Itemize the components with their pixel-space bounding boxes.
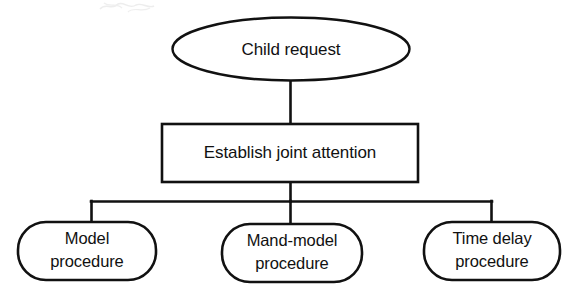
node-mand-model-procedure[interactable]: Mand-model procedure <box>222 224 362 282</box>
mand-model-procedure-label-line2: procedure <box>255 254 328 272</box>
node-child-request[interactable]: Child request <box>173 18 410 81</box>
flowchart-canvas: Child request Establish joint attention … <box>0 0 570 296</box>
node-model-procedure[interactable]: Model procedure <box>18 222 156 280</box>
model-procedure-label-line1: Model <box>65 229 109 247</box>
time-delay-procedure-label-line2: procedure <box>455 252 528 270</box>
mand-model-procedure-label-line1: Mand-model <box>247 231 338 249</box>
flowchart-diagram: Child request Establish joint attention … <box>0 0 570 296</box>
node-establish-joint-attention[interactable]: Establish joint attention <box>162 124 418 182</box>
child-request-label: Child request <box>242 40 341 59</box>
establish-joint-attention-label: Establish joint attention <box>204 143 376 162</box>
model-procedure-label-line2: procedure <box>50 252 123 270</box>
time-delay-procedure-label-line1: Time delay <box>452 229 532 247</box>
node-time-delay-procedure[interactable]: Time delay procedure <box>424 222 560 280</box>
